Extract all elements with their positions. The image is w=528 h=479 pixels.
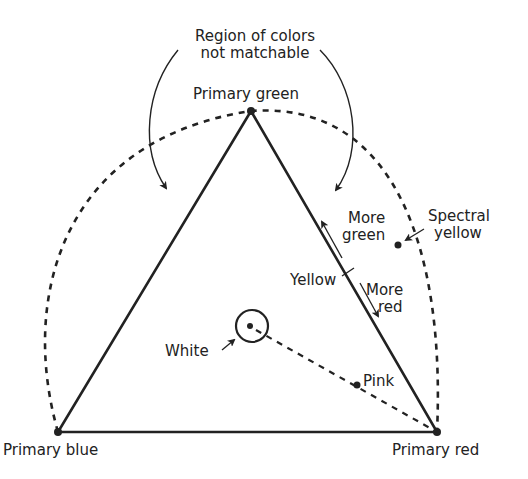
region-label-line1: Region of colors <box>170 28 340 45</box>
spectral-yellow-dot <box>395 242 402 249</box>
region-label-line2: not matchable <box>170 45 340 62</box>
white-dot <box>247 323 253 329</box>
pink-label: Pink <box>363 373 394 390</box>
region-label: Region of colors not matchable <box>170 28 340 62</box>
color-triangle-diagram: Region of colors not matchable Primary g… <box>0 0 528 479</box>
yellow-label: Yellow <box>290 272 336 289</box>
more-green-label: More green <box>342 210 385 244</box>
more-red-line2: red <box>366 299 403 316</box>
spectral-yellow-line1: Spectral <box>428 208 490 225</box>
primary-blue-label: Primary blue <box>3 442 98 459</box>
primary-green-dot <box>247 107 255 115</box>
region-arrow-right <box>320 50 353 190</box>
primary-blue-dot <box>54 428 62 436</box>
spectral-yellow-label: Spectral yellow <box>428 208 490 242</box>
spectral-yellow-line2: yellow <box>428 225 490 242</box>
white-label: White <box>165 343 209 360</box>
white-arrow <box>222 340 234 350</box>
more-red-label: More red <box>366 282 403 316</box>
primary-red-label: Primary red <box>392 442 479 459</box>
more-green-line2: green <box>342 227 385 244</box>
pink-dot <box>354 382 361 389</box>
region-arrow-left <box>149 50 178 188</box>
more-green-line1: More <box>342 210 385 227</box>
primary-green-label: Primary green <box>193 86 299 103</box>
white-to-red-line <box>256 330 437 432</box>
more-red-line1: More <box>366 282 403 299</box>
